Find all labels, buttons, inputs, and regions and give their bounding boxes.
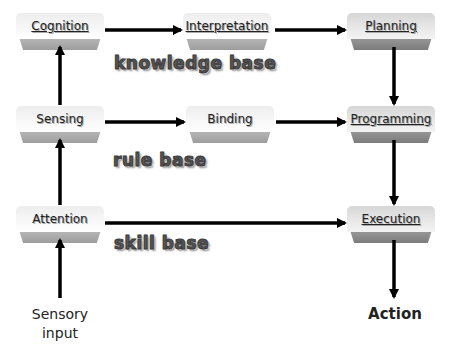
flow-arrows [0, 0, 455, 360]
